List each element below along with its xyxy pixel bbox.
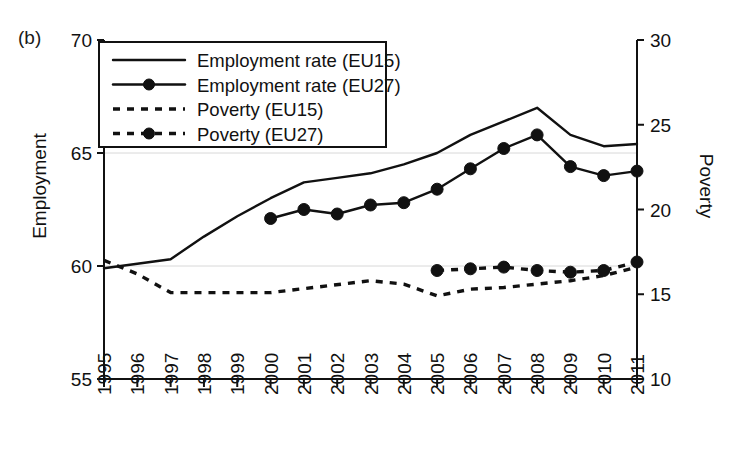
series-marker-3	[564, 266, 576, 278]
series-marker-1	[564, 161, 576, 173]
y-tick-label-left: 60	[71, 256, 92, 277]
series-marker-3	[498, 261, 510, 273]
series-marker-1	[498, 143, 510, 155]
y-tick-label-right: 10	[650, 369, 671, 390]
x-tick-label: 2003	[361, 353, 382, 395]
series-marker-3	[464, 263, 476, 275]
legend-label-1: Employment rate (EU27)	[197, 75, 401, 96]
legend-marker-3	[144, 128, 155, 139]
y-tick-label-left: 70	[71, 30, 92, 51]
x-tick-label: 2005	[427, 353, 448, 395]
series-marker-1	[265, 213, 277, 225]
legend-label-2: Poverty (EU15)	[197, 99, 323, 120]
x-tick-label: 1997	[161, 353, 182, 395]
series-marker-1	[531, 129, 543, 141]
y-tick-label-right: 20	[650, 200, 671, 221]
y-tick-label-right: 30	[650, 30, 671, 51]
y-tick-label-left: 65	[71, 143, 92, 164]
x-tick-label: 2008	[527, 353, 548, 395]
x-tick-label: 2000	[261, 353, 282, 395]
y-tick-label-left: 55	[71, 369, 92, 390]
legend-label-0: Employment rate (EU15)	[197, 50, 401, 71]
series-marker-3	[598, 265, 610, 277]
series-marker-1	[331, 208, 343, 220]
x-tick-label: 1996	[127, 353, 148, 395]
x-tick-label: 2009	[560, 353, 581, 395]
legend-label-3: Poverty (EU27)	[197, 124, 323, 145]
x-tick-label: 2010	[594, 353, 615, 395]
x-tick-label: 1999	[227, 353, 248, 395]
x-tick-label: 2006	[460, 353, 481, 395]
series-marker-1	[298, 204, 310, 216]
series-marker-1	[598, 170, 610, 182]
x-tick-label: 2011	[627, 354, 648, 395]
chart-figure: (b) Employment Poverty 55606570101520253…	[0, 0, 745, 459]
x-tick-label: 2007	[494, 353, 515, 395]
series-marker-3	[531, 265, 543, 277]
x-tick-label: 2001	[294, 353, 315, 395]
y-tick-label-right: 15	[650, 284, 671, 305]
plot-area: 5560657010152025301995199619971998199920…	[0, 0, 745, 459]
x-tick-label: 1995	[94, 353, 115, 395]
series-marker-1	[464, 163, 476, 175]
series-marker-1	[365, 199, 377, 211]
y-tick-label-right: 25	[650, 115, 671, 136]
legend-marker-1	[144, 79, 155, 90]
series-marker-3	[431, 265, 443, 277]
series-marker-1	[431, 183, 443, 195]
series-marker-1	[398, 197, 410, 209]
x-tick-label: 1998	[194, 353, 215, 395]
x-tick-label: 2004	[394, 352, 415, 395]
x-tick-label: 2002	[327, 353, 348, 395]
chart-legend: Employment rate (EU15)Employment rate (E…	[99, 42, 401, 147]
